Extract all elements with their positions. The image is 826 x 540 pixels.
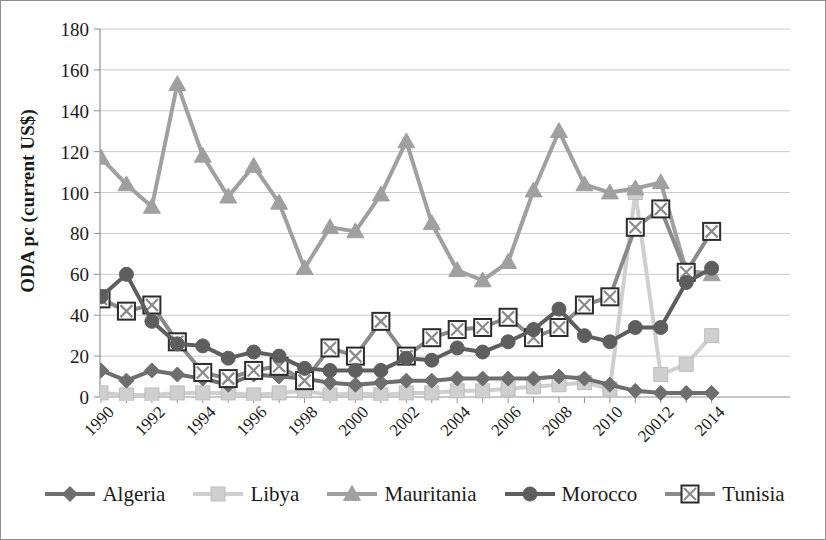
data-point-triangle (652, 174, 669, 189)
data-point-circle (679, 276, 693, 290)
data-point-diamond (679, 385, 694, 400)
data-point-circle (145, 314, 159, 328)
y-tick-label: 80 (70, 223, 89, 244)
data-point-triangle (525, 182, 542, 197)
x-tick-label: 1990 (80, 402, 117, 439)
data-point-triangle (398, 133, 415, 148)
data-point-square-x (601, 288, 618, 305)
data-point-square-light (679, 357, 693, 371)
legend-item-mauritania[interactable]: Mauritania (325, 482, 476, 507)
legend-label: Mauritania (384, 482, 476, 507)
data-point-circle (450, 341, 464, 355)
data-point-square-x (550, 319, 567, 336)
data-point-diamond (94, 363, 109, 378)
x-tick-labels: 1990199219941996199820002002200420062008… (80, 402, 728, 446)
y-tick-label: 140 (61, 101, 90, 122)
legend-swatch-square-x-icon (663, 482, 717, 506)
data-point-circle (527, 323, 541, 337)
y-tick-label: 40 (70, 305, 89, 326)
legend-item-libya[interactable]: Libya (191, 482, 299, 507)
x-tick-label: 1996 (233, 402, 270, 439)
data-point-diamond (144, 363, 159, 378)
data-point-diamond (63, 487, 78, 502)
data-point-circle (94, 290, 108, 304)
data-point-circle (247, 345, 261, 359)
series-libya (94, 186, 719, 402)
data-point-triangle (423, 215, 440, 230)
x-tick-label: 1992 (131, 402, 168, 439)
data-point-square-x (245, 362, 262, 379)
data-point-circle (221, 351, 235, 365)
data-point-circle (501, 335, 515, 349)
data-point-circle (476, 345, 490, 359)
data-point-diamond (170, 367, 185, 382)
x-tick-label: 2000 (335, 402, 372, 439)
data-point-circle (196, 339, 210, 353)
data-point-diamond (704, 385, 719, 400)
data-point-square-x (449, 321, 466, 338)
data-point-square-light (119, 388, 133, 402)
data-point-square-light (654, 368, 668, 382)
legend-item-morocco[interactable]: Morocco (503, 482, 638, 507)
data-point-square-light (211, 487, 225, 501)
y-tick-label: 0 (80, 387, 90, 408)
series-line (101, 84, 712, 280)
data-point-circle (654, 320, 668, 334)
data-point-square-light (196, 386, 210, 400)
legend-item-tunisia[interactable]: Tunisia (663, 482, 784, 507)
data-point-square-x (194, 364, 211, 381)
data-point-square-x (423, 329, 440, 346)
y-tick-label: 20 (70, 346, 89, 367)
data-point-circle (298, 361, 312, 375)
data-point-square-light (272, 386, 286, 400)
data-point-triangle (372, 186, 389, 201)
data-point-circle (272, 349, 286, 363)
x-tick-label: 2008 (538, 402, 575, 439)
y-tick-label: 60 (70, 264, 89, 285)
data-point-square-x (500, 309, 517, 326)
x-tick-label: 2006 (487, 402, 524, 439)
data-point-square-x (118, 303, 135, 320)
data-point-circle (577, 329, 591, 343)
data-point-circle (523, 487, 537, 501)
x-tick-label: 2010 (589, 402, 626, 439)
data-point-square-x (576, 297, 593, 314)
legend-swatch-circle-icon (503, 482, 557, 506)
y-tick-label: 100 (61, 183, 90, 204)
data-point-circle (552, 302, 566, 316)
data-point-square-x (220, 370, 237, 387)
x-tick-label: 2014 (691, 402, 729, 440)
data-point-square-x (627, 219, 644, 236)
x-tick-label: 2004 (437, 402, 475, 440)
plot-area: 020406080100120140160180 199019921994199… (1, 1, 826, 540)
data-point-circle (323, 363, 337, 377)
data-point-square-light (170, 386, 184, 400)
data-point-circle (170, 337, 184, 351)
legend-swatch-diamond-icon (43, 482, 97, 506)
data-point-square-x (372, 313, 389, 330)
y-tick-label: 120 (61, 142, 90, 163)
data-point-circle (425, 353, 439, 367)
legend-label: Libya (250, 482, 299, 507)
data-point-triangle (500, 254, 517, 269)
x-tick-label: 1998 (284, 402, 321, 439)
data-point-square-x (321, 339, 338, 356)
data-point-square-light (247, 388, 261, 402)
x-tick-label: 1994 (182, 402, 220, 440)
data-point-diamond (628, 383, 643, 398)
data-point-square-light (145, 388, 159, 402)
data-point-diamond (119, 373, 134, 388)
data-point-triangle (550, 123, 567, 138)
data-point-circle (628, 320, 642, 334)
y-tick-labels: 020406080100120140160180 (61, 19, 90, 408)
data-point-circle (603, 335, 617, 349)
legend-item-algeria[interactable]: Algeria (43, 482, 165, 507)
data-point-triangle (245, 157, 262, 172)
data-series-layer (93, 76, 721, 402)
data-point-circle (399, 351, 413, 365)
y-tick-label: 180 (61, 19, 90, 40)
chart-container: ODA pc (current US$) 0204060801001201401… (0, 0, 826, 540)
data-point-circle (705, 261, 719, 275)
legend-label: Algeria (102, 482, 165, 507)
chart-legend: AlgeriaLibyaMauritaniaMoroccoTunisia (1, 471, 826, 517)
